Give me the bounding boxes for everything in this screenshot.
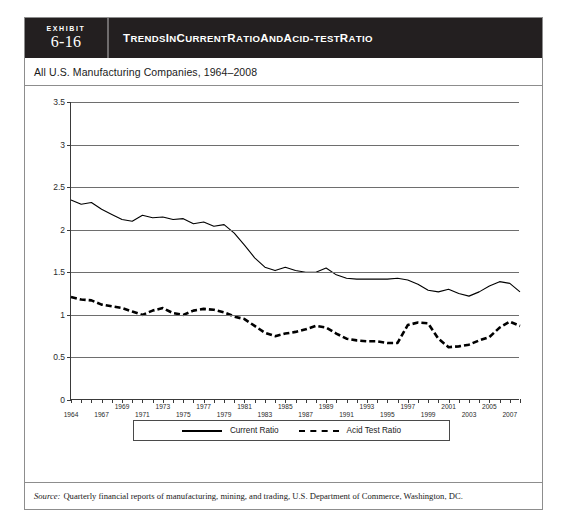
- legend-label-acid-test-ratio: Acid Test Ratio: [347, 426, 401, 435]
- x-axis-tick: [336, 399, 337, 403]
- x-axis-tick: [255, 399, 256, 403]
- gridline: [71, 145, 519, 146]
- gridline: [71, 357, 519, 358]
- x-axis-label: 1993: [360, 403, 375, 410]
- exhibit-word-label: Exhibit: [47, 24, 86, 33]
- x-axis-tick: [193, 399, 194, 403]
- x-axis-label: 1983: [258, 411, 273, 418]
- x-axis-label: 1985: [278, 403, 293, 410]
- x-axis-tick: [183, 399, 184, 403]
- x-axis-label: 1971: [135, 411, 150, 418]
- y-axis-label: 3.5: [53, 97, 65, 107]
- y-axis-tick: [67, 187, 71, 188]
- exhibit-number: 6-16: [51, 33, 82, 50]
- solid-line-icon: [182, 430, 222, 432]
- x-axis-label: 1995: [380, 411, 395, 418]
- x-axis-label: 1975: [176, 411, 191, 418]
- x-axis-label: 1991: [339, 411, 354, 418]
- x-axis-tick: [510, 399, 511, 403]
- x-axis-tick: [428, 399, 429, 403]
- gridline: [71, 272, 519, 273]
- exhibit-header: Exhibit 6-16 TRENDS IN CURRENT RATIO AND…: [25, 18, 542, 58]
- x-axis-tick: [296, 399, 297, 403]
- x-axis-tick: [71, 399, 72, 403]
- y-axis-tick: [67, 230, 71, 231]
- x-axis-label: 1973: [155, 403, 170, 410]
- x-axis-tick: [142, 399, 143, 403]
- x-axis-tick: [418, 399, 419, 403]
- x-axis-tick: [275, 399, 276, 403]
- x-axis-label: 1999: [421, 411, 436, 418]
- y-axis-label: 3: [60, 140, 65, 150]
- x-axis-label: 2003: [462, 411, 477, 418]
- y-axis-label: 0.5: [53, 352, 65, 362]
- y-axis-tick: [67, 357, 71, 358]
- series-line-acid-test-ratio: [71, 297, 520, 347]
- gridline: [71, 187, 519, 188]
- x-axis-label: 1979: [217, 411, 232, 418]
- x-axis-tick: [479, 399, 480, 403]
- x-axis-label: 1977: [196, 403, 211, 410]
- exhibit-card: Exhibit 6-16 TRENDS IN CURRENT RATIO AND…: [24, 17, 543, 510]
- plot-frame: 00.511.522.533.5196419671969197119731975…: [70, 102, 519, 400]
- x-axis-tick: [469, 399, 470, 403]
- x-axis-tick: [347, 399, 348, 403]
- x-axis-label: 1964: [64, 411, 79, 418]
- y-axis-label: 2.5: [53, 182, 65, 192]
- y-axis-label: 1: [60, 310, 65, 320]
- x-axis-tick: [91, 399, 92, 403]
- source-label: Source:: [34, 491, 60, 501]
- gridline: [71, 315, 519, 316]
- x-axis-label: 2007: [502, 411, 517, 418]
- x-axis-tick: [387, 399, 388, 403]
- chart-series-layer: [71, 102, 520, 400]
- chart-legend: Current Ratio Acid Test Ratio: [133, 420, 450, 441]
- x-axis-tick: [112, 399, 113, 403]
- source-text: Quarterly financial reports of manufactu…: [63, 491, 462, 501]
- y-axis-label: 0: [60, 395, 65, 405]
- x-axis-tick: [520, 399, 521, 403]
- exhibit-source: Source: Quarterly financial reports of m…: [25, 482, 542, 509]
- x-axis-tick: [500, 399, 501, 403]
- x-axis-label: 1967: [94, 411, 109, 418]
- x-axis-tick: [357, 399, 358, 403]
- y-axis-tick: [67, 272, 71, 273]
- x-axis-tick: [132, 399, 133, 403]
- legend-item-current-ratio: Current Ratio: [182, 426, 279, 435]
- exhibit-subtitle: All U.S. Manufacturing Companies, 1964–2…: [25, 58, 542, 86]
- legend-label-current-ratio: Current Ratio: [230, 426, 279, 435]
- x-axis-tick: [459, 399, 460, 403]
- x-axis-tick: [102, 399, 103, 403]
- x-axis-label: 1989: [319, 403, 334, 410]
- x-axis-tick: [438, 399, 439, 403]
- y-axis-label: 2: [60, 225, 65, 235]
- x-axis-label: 1981: [237, 403, 252, 410]
- x-axis-label: 1997: [400, 403, 415, 410]
- x-axis-tick: [153, 399, 154, 403]
- chart-area: 00.511.522.533.5196419671969197119731975…: [25, 86, 542, 483]
- y-axis-tick: [67, 145, 71, 146]
- gridline: [71, 230, 519, 231]
- x-axis-tick: [377, 399, 378, 403]
- exhibit-title: TRENDS IN CURRENT RATIO AND ACID-TEST RA…: [109, 18, 542, 58]
- x-axis-tick: [265, 399, 266, 403]
- x-axis-tick: [173, 399, 174, 403]
- x-axis-label: 1987: [298, 411, 313, 418]
- gridline: [71, 102, 519, 103]
- dashed-line-icon: [299, 430, 339, 432]
- x-axis-tick: [224, 399, 225, 403]
- x-axis-tick: [214, 399, 215, 403]
- x-axis-tick: [316, 399, 317, 403]
- exhibit-number-block: Exhibit 6-16: [25, 18, 109, 58]
- legend-item-acid-test-ratio: Acid Test Ratio: [299, 426, 401, 435]
- x-axis-label: 2005: [482, 403, 497, 410]
- x-axis-tick: [234, 399, 235, 403]
- x-axis-label: 2001: [441, 403, 456, 410]
- y-axis-tick: [67, 315, 71, 316]
- x-axis-tick: [81, 399, 82, 403]
- x-axis-tick: [398, 399, 399, 403]
- y-axis-tick: [67, 102, 71, 103]
- x-axis-label: 1969: [115, 403, 130, 410]
- y-axis-label: 1.5: [53, 267, 65, 277]
- series-line-current-ratio: [71, 200, 520, 296]
